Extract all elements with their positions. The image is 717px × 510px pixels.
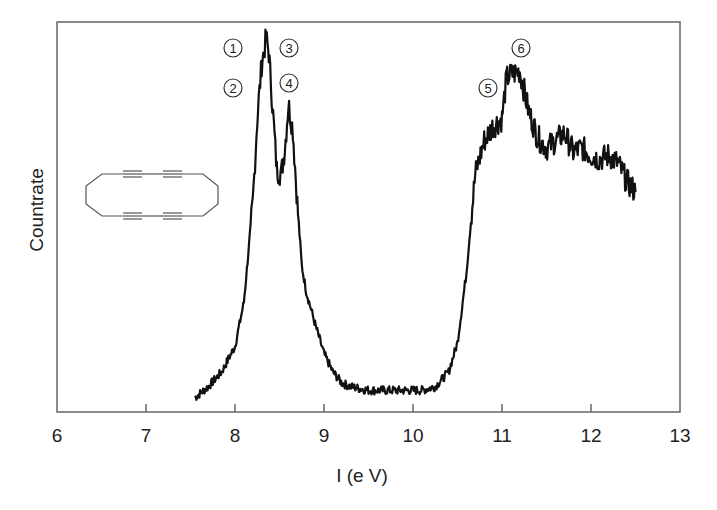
peak-label-4: 4 (280, 74, 298, 92)
x-tick-label: 12 (580, 425, 601, 446)
peak-label-3: 3 (280, 39, 298, 57)
y-axis-label: Countrate (26, 168, 47, 251)
x-axis-label: I (e V) (336, 465, 388, 486)
svg-text:5: 5 (484, 81, 491, 96)
spectrum-line (195, 30, 636, 400)
x-tick-label: 7 (141, 425, 152, 446)
x-tick-label: 10 (402, 425, 423, 446)
peak-label-5: 5 (479, 79, 497, 97)
svg-text:6: 6 (517, 41, 524, 56)
svg-text:2: 2 (229, 81, 236, 96)
x-tick-label: 11 (492, 425, 512, 446)
spectrum-chart: 678910111213 I (e V) Countrate 123456 (0, 0, 717, 510)
x-axis-ticks (146, 404, 591, 412)
x-axis-tick-labels: 678910111213 (52, 425, 691, 446)
svg-text:3: 3 (285, 41, 292, 56)
peak-label-2: 2 (224, 79, 242, 97)
peak-label-1: 1 (224, 39, 242, 57)
svg-text:1: 1 (229, 41, 236, 56)
plot-frame (57, 22, 680, 412)
peak-label-6: 6 (512, 39, 530, 57)
x-tick-label: 6 (52, 425, 63, 446)
x-tick-label: 8 (230, 425, 241, 446)
molecule-inset-icon (86, 171, 218, 219)
x-tick-label: 9 (319, 425, 330, 446)
svg-text:4: 4 (285, 76, 292, 91)
x-tick-label: 13 (669, 425, 690, 446)
